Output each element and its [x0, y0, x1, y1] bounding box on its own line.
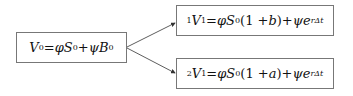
arrow-down — [127, 48, 175, 73]
node-up: 1V1 = φS0(1 + b) + ψerΔt — [176, 5, 334, 36]
node-root: V0 = φS0 + ψB0 — [16, 32, 127, 63]
arrow-up — [127, 23, 175, 47]
node-down: 2V1 = φS0(1 + a) + ψerΔt — [176, 58, 334, 89]
